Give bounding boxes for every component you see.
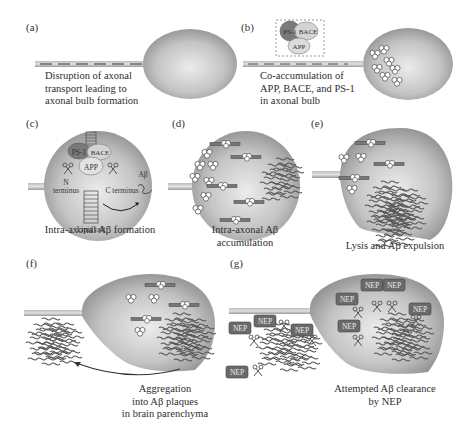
- panel-label-a: (a): [26, 21, 38, 33]
- caption-g: Attempted Aβ clearance by NEP: [315, 383, 455, 408]
- caption-c-line-1: Intra-axonal Aβ formation: [30, 224, 170, 237]
- caption-f-line-3: in brain parenchyma: [100, 408, 230, 421]
- app-label: APP: [293, 43, 306, 51]
- panel-label-c: (c): [26, 117, 38, 129]
- nep-badge: [361, 279, 383, 291]
- axonal-bulb: [143, 29, 237, 99]
- n-terminus-label-2: terminus: [53, 186, 79, 195]
- caption-e: Lysis and Aβ expulsion: [330, 240, 460, 253]
- nep-badge: [291, 324, 313, 336]
- caption-b: Co-accumulation of APP, BACE, and PS-1 i…: [260, 70, 355, 108]
- app-label: APP: [84, 163, 98, 172]
- c-terminus-label: C terminus: [105, 186, 138, 195]
- caption-a-line-2: transport leading to: [45, 83, 138, 96]
- nep-badge: [229, 322, 251, 334]
- ps1-label: PS-1: [283, 28, 297, 36]
- caption-a-line-3: axonal bulb formation: [45, 95, 138, 108]
- nep-badge: [226, 366, 248, 378]
- nep-badge: [336, 293, 358, 305]
- panel-label-d: (d): [172, 117, 185, 129]
- axon: [24, 310, 84, 316]
- panel-e-art: [312, 128, 452, 247]
- panel-f-art: [24, 274, 216, 375]
- caption-d-line-1: Intra-axonal Aβ: [180, 224, 310, 237]
- caption-f-line-1: Aggregation: [100, 383, 230, 396]
- panel-g-art: [226, 274, 444, 378]
- caption-g-line-2: by NEP: [315, 396, 455, 409]
- caption-b-line-3: in axonal bulb: [260, 95, 355, 108]
- panel-label-g: (g): [230, 257, 243, 269]
- caption-a: Disruption of axonal transport leading t…: [45, 70, 138, 108]
- caption-f: Aggregation into Aβ plaques in brain par…: [100, 383, 230, 421]
- nep-badge: [254, 315, 276, 327]
- ps1-label: PS-1: [72, 148, 87, 157]
- caption-e-line-1: Lysis and Aβ expulsion: [330, 240, 460, 253]
- panel-label-f: (f): [26, 257, 37, 269]
- axonal-bulb: [363, 28, 453, 100]
- nep-badge: [409, 303, 431, 315]
- bace-label: BACE: [91, 149, 110, 157]
- axon: [312, 171, 342, 178]
- axon: [229, 308, 314, 314]
- bace-label: BACE: [299, 28, 318, 36]
- nep-badge: [338, 320, 360, 332]
- caption-f-line-2: into Aβ plaques: [100, 396, 230, 409]
- panel-label-b: (b): [241, 21, 254, 33]
- abeta-label: Aβ: [138, 170, 147, 179]
- caption-g-line-1: Attempted Aβ clearance: [315, 383, 455, 396]
- caption-b-line-1: Co-accumulation of: [260, 70, 355, 83]
- caption-c: Intra-axonal Aβ formation: [30, 224, 170, 237]
- panel-label-e: (e): [311, 117, 323, 129]
- diagram-canvas: NEP PS-1 BACE APP: [0, 0, 469, 436]
- caption-a-line-1: Disruption of axonal: [45, 70, 138, 83]
- caption-d-line-2: accumulation: [180, 237, 310, 250]
- caption-d: Intra-axonal Aβ accumulation: [180, 224, 310, 249]
- nep-badge: [383, 279, 405, 291]
- caption-b-line-2: APP, BACE, and PS-1: [260, 83, 355, 96]
